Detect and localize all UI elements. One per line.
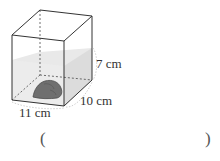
answer-close-paren: ) <box>205 130 211 147</box>
width-label: 10 cm <box>80 94 112 107</box>
answer-blank[interactable] <box>52 130 202 150</box>
water-height-label: 7 cm <box>96 57 122 70</box>
length-label: 11 cm <box>19 106 51 119</box>
answer-open-paren: ( <box>40 130 46 147</box>
